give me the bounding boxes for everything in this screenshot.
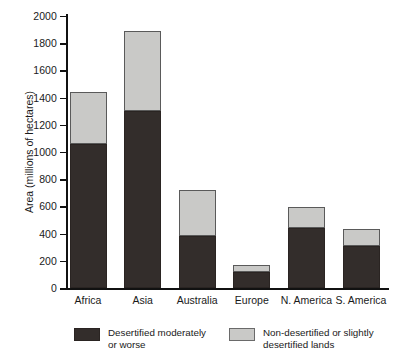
bar-segment-desertified xyxy=(70,144,107,288)
legend-label-non-desertified: Non-desertified or slightly desertified … xyxy=(263,327,374,350)
x-axis-line xyxy=(60,288,389,290)
chart-legend: Desertified moderately or worse Non-dese… xyxy=(74,327,394,355)
y-tick-mark xyxy=(60,43,67,44)
y-tick-mark xyxy=(60,16,67,17)
y-tick-mark xyxy=(60,288,67,289)
bar-segment-non-desertified xyxy=(70,92,107,144)
x-tick-label: Australia xyxy=(177,294,218,306)
y-tick-label: 0 xyxy=(51,282,57,294)
y-tick-label: 2000 xyxy=(33,10,57,22)
y-tick-label: 1400 xyxy=(33,92,57,104)
bar-chart: Area (millions of hectares) 020040060080… xyxy=(0,0,409,359)
bar-asia xyxy=(124,31,161,288)
x-tick-label: N. America xyxy=(281,294,332,306)
legend-swatch-dark-icon xyxy=(74,328,100,341)
y-tick-label: 800 xyxy=(39,173,57,185)
y-tick-mark xyxy=(60,152,67,153)
y-tick-mark xyxy=(60,70,67,71)
plot-area: Area (millions of hectares) 020040060080… xyxy=(67,16,387,288)
legend-swatch-light-icon xyxy=(229,328,255,341)
y-tick-label: 400 xyxy=(39,228,57,240)
x-tick-label: Africa xyxy=(75,294,102,306)
y-tick-label: 1200 xyxy=(33,119,57,131)
bar-n-america xyxy=(288,207,325,288)
y-tick-label: 1000 xyxy=(33,146,57,158)
bar-segment-desertified xyxy=(343,246,380,288)
bar-segment-non-desertified xyxy=(343,229,380,246)
bar-australia xyxy=(179,190,216,288)
bar-segment-non-desertified xyxy=(179,190,216,236)
bar-segment-desertified xyxy=(233,272,270,288)
bar-s-america xyxy=(343,229,380,288)
y-tick-mark xyxy=(60,261,67,262)
bar-segment-desertified xyxy=(288,228,325,288)
y-tick-mark xyxy=(60,234,67,235)
y-tick-label: 1600 xyxy=(33,64,57,76)
bar-segment-desertified xyxy=(124,111,161,288)
bar-segment-non-desertified xyxy=(288,207,325,228)
bar-europe xyxy=(233,265,270,288)
legend-item-desertified: Desertified moderately or worse xyxy=(74,327,206,350)
y-tick-mark xyxy=(60,98,67,99)
y-tick-label: 1800 xyxy=(33,37,57,49)
legend-label-desertified: Desertified moderately or worse xyxy=(108,327,206,350)
y-tick-mark xyxy=(60,206,67,207)
y-tick-label: 200 xyxy=(39,255,57,267)
bar-segment-non-desertified xyxy=(124,31,161,111)
bar-africa xyxy=(70,92,107,288)
y-tick-mark xyxy=(60,179,67,180)
y-tick-label: 600 xyxy=(39,200,57,212)
bar-segment-desertified xyxy=(179,236,216,288)
x-tick-label: S. America xyxy=(336,294,387,306)
bar-segment-non-desertified xyxy=(233,265,270,272)
x-tick-label: Europe xyxy=(235,294,269,306)
x-tick-label: Asia xyxy=(132,294,152,306)
legend-item-non-desertified: Non-desertified or slightly desertified … xyxy=(229,327,374,350)
y-tick-mark xyxy=(60,125,67,126)
